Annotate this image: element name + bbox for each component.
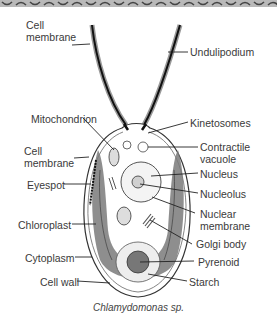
label-cytoplasm: Cytoplasm	[25, 252, 75, 264]
label-line: Cell	[24, 145, 74, 157]
label-line: Contractile	[200, 141, 250, 153]
label-line: Nuclear	[200, 208, 250, 220]
label-mitochondrion: Mitochondrion	[31, 113, 97, 125]
label-line: membrane	[26, 31, 76, 43]
label-line: membrane	[200, 220, 250, 232]
label-nuclear-membrane: Nuclear membrane	[200, 208, 250, 232]
label-contractile-vacuole: Contractile vacuole	[200, 141, 250, 165]
contractile-vacuole	[138, 142, 148, 152]
caption-genus: Chlamydomonas	[93, 302, 168, 313]
label-nucleolus: Nucleolus	[200, 188, 246, 200]
left-flagellum	[92, 25, 126, 125]
label-line: Cell	[26, 19, 76, 31]
label-cell-wall: Cell wall	[40, 276, 79, 288]
label-golgi-body: Golgi body	[196, 238, 246, 250]
label-line: membrane	[24, 157, 74, 169]
label-eyespot: Eyespot	[27, 179, 65, 191]
right-flagellum	[144, 25, 180, 125]
nucleolus	[132, 176, 144, 188]
caption-species: sp.	[168, 302, 184, 313]
label-pyrenoid: Pyrenoid	[198, 256, 239, 268]
label-cell-membrane-mid: Cell membrane	[24, 145, 74, 169]
figure-caption: Chlamydomonas sp.	[0, 302, 277, 313]
label-nucleus: Nucleus	[200, 168, 238, 180]
label-line: vacuole	[200, 153, 250, 165]
label-kinetosomes: Kinetosomes	[190, 117, 251, 129]
mitochondrion	[109, 148, 119, 166]
label-chloroplast: Chloroplast	[18, 219, 71, 231]
label-undulipodium: Undulipodium	[190, 46, 254, 58]
label-cell-membrane-top: Cell membrane	[26, 19, 76, 43]
label-starch: Starch	[189, 276, 219, 288]
